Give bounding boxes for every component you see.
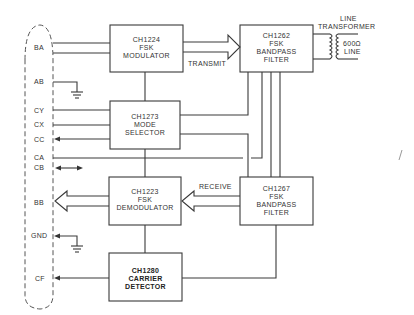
- svg-text:CH1262: CH1262: [263, 32, 290, 39]
- svg-text:CH1280: CH1280: [132, 267, 159, 274]
- block-demodulator: CH1223 FSK DEMODULATOR: [109, 177, 181, 225]
- receive-label: RECEIVE: [199, 183, 232, 190]
- svg-text:CH1224: CH1224: [133, 36, 160, 43]
- transformer-title-2: TRANSFORMER: [318, 23, 375, 30]
- selector-to-rx-filter-line: [180, 134, 248, 177]
- pin-ba: BA: [34, 44, 44, 51]
- pin-labels: BA AB CY CX CC CA CB BB GND CF: [31, 44, 47, 282]
- svg-text:BANDPASS: BANDPASS: [256, 201, 296, 208]
- bb-wide-arrow: [55, 191, 109, 211]
- rx-filter-to-detector-line: [182, 225, 276, 278]
- cc-arrow: [54, 137, 110, 142]
- block-mode-selector: CH1273 MODE SELECTOR: [110, 101, 180, 149]
- block-carrier-detector: CH1280 CARRIER DETECTOR: [109, 253, 182, 301]
- line-label: LINE: [344, 48, 361, 55]
- svg-text:CH1223: CH1223: [131, 188, 158, 195]
- block-modulator: CH1224 FSK MODULATOR: [110, 25, 183, 72]
- svg-text:MODULATOR: MODULATOR: [123, 52, 170, 59]
- svg-text:CH1273: CH1273: [131, 113, 158, 120]
- svg-text:BANDPASS: BANDPASS: [256, 48, 296, 55]
- cb-bidirectional-arrow: [55, 166, 83, 171]
- ab-ground-icon: [53, 82, 83, 98]
- pin-ab: AB: [34, 78, 44, 85]
- block-tx-bandpass-filter: CH1262 FSK BANDPASS FILTER: [240, 25, 313, 72]
- pin-cf: CF: [35, 275, 45, 282]
- svg-text:CH1267: CH1267: [263, 185, 290, 192]
- fsk-modem-block-diagram: BA AB CY CX CC CA CB BB GND CF CH1224 FS…: [0, 0, 414, 315]
- svg-text:FILTER: FILTER: [264, 209, 289, 216]
- pin-bb: BB: [34, 199, 44, 206]
- pin-cx: CX: [34, 121, 44, 128]
- selector-to-tx-filter-line: [180, 72, 248, 115]
- gnd-ground-icon: [54, 234, 83, 253]
- line-impedance-label: 600Ω: [343, 40, 361, 47]
- transmit-wide-arrow: TRANSMIT: [183, 35, 240, 67]
- pin-gnd: GND: [31, 232, 47, 239]
- svg-text:FSK: FSK: [269, 40, 284, 47]
- svg-text:DETECTOR: DETECTOR: [125, 283, 166, 290]
- ba-lines: [53, 43, 110, 53]
- pin-ca: CA: [34, 154, 44, 161]
- pin-cc: CC: [34, 136, 45, 143]
- pin-cb: CB: [34, 164, 44, 171]
- svg-text:SELECTOR: SELECTOR: [125, 129, 165, 136]
- receive-wide-arrow: RECEIVE: [182, 183, 240, 211]
- cf-arrow: [54, 276, 109, 281]
- svg-text:FSK: FSK: [269, 193, 284, 200]
- svg-text:FSK: FSK: [139, 44, 154, 51]
- transformer-title-1: LINE: [340, 15, 357, 22]
- ca-to-filter-line: [251, 72, 262, 158]
- svg-text:CARRIER: CARRIER: [129, 275, 163, 282]
- block-rx-bandpass-filter: CH1267 FSK BANDPASS FILTER: [240, 177, 313, 225]
- line-transformer-icon: LINE TRANSFORMER 600Ω LINE: [313, 15, 375, 59]
- svg-text:FILTER: FILTER: [264, 56, 289, 63]
- svg-text:MODE: MODE: [134, 121, 156, 128]
- pin-cy: CY: [34, 107, 44, 114]
- stray-mark: [399, 150, 402, 160]
- svg-text:DEMODULATOR: DEMODULATOR: [116, 204, 173, 211]
- transmit-label: TRANSMIT: [188, 60, 227, 67]
- svg-text:FSK: FSK: [138, 196, 153, 203]
